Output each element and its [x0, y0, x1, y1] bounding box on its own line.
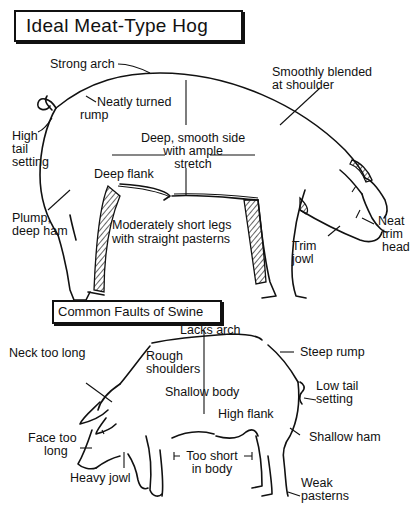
label-deep-flank: Deep flank: [94, 168, 154, 181]
label-lacks-arch: Lacks arch: [180, 324, 240, 337]
label-smoothly-blended-2: at shoulder: [272, 79, 334, 92]
faults-title: Common Faults of Swine: [52, 300, 222, 324]
label-neatly-turned-rump-1: Neatly turned: [97, 96, 171, 109]
ideal-hog-title: Ideal Meat-Type Hog: [14, 10, 243, 42]
ideal-hog-drawing: [38, 64, 387, 300]
label-shallow-ham: Shallow ham: [309, 431, 381, 444]
label-rough-shoulders-2: shoulders: [146, 363, 200, 376]
label-too-short-2: in body: [176, 463, 248, 476]
label-neck-too-long: Neck too long: [9, 347, 85, 360]
label-neatly-turned-rump-2: rump: [80, 109, 108, 122]
label-deep-side-3: stretch: [138, 158, 248, 171]
label-shallow-body: Shallow body: [165, 386, 239, 399]
label-strong-arch: Strong arch: [50, 58, 115, 71]
label-trim-jowl-2: jowl: [292, 253, 314, 266]
label-neat-head-3: head: [382, 241, 410, 254]
label-plump-ham-2: deep ham: [12, 225, 68, 238]
label-short-legs-1: Moderately short legs: [112, 219, 232, 232]
label-face-too-long-2: long: [44, 445, 68, 458]
label-low-tail-2: setting: [316, 393, 353, 406]
label-high-tail-3: setting: [12, 156, 49, 169]
label-heavy-jowl: Heavy jowl: [70, 472, 130, 485]
label-short-legs-2: with straight pasterns: [112, 233, 230, 246]
label-steep-rump: Steep rump: [300, 346, 365, 359]
label-weak-pasterns-2: pasterns: [301, 490, 349, 503]
label-high-flank: High flank: [218, 408, 274, 421]
